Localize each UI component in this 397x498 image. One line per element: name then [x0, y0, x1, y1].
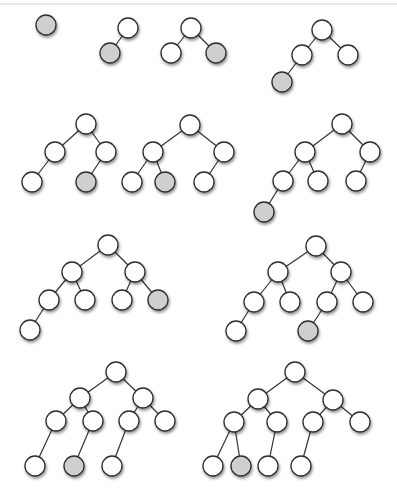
tree-node: [143, 142, 163, 162]
tree-node: [346, 171, 366, 191]
tree-8: [20, 235, 168, 340]
inserted-node: [36, 15, 56, 35]
tree-node: [308, 171, 328, 191]
inserted-node: [155, 172, 175, 192]
inserted-node: [298, 321, 318, 341]
tree-11: [203, 362, 370, 476]
tree-node: [244, 292, 264, 312]
tree-node: [125, 262, 145, 282]
tree-node: [75, 290, 95, 310]
tree-9: [226, 236, 373, 341]
inserted-node: [76, 172, 96, 192]
tree-node: [118, 18, 138, 38]
tree-node: [25, 456, 45, 476]
tree-node: [22, 172, 42, 192]
tree-7: [254, 114, 380, 222]
tree-5: [22, 114, 116, 192]
tree-node: [273, 171, 293, 191]
inserted-node: [64, 456, 84, 476]
tree-node: [306, 236, 326, 256]
tree-node: [76, 114, 96, 134]
tree-node: [285, 362, 305, 382]
tree-node: [331, 262, 351, 282]
inserted-node: [231, 456, 251, 476]
tree-node: [224, 412, 244, 432]
tree-node: [350, 412, 370, 432]
tree-node: [106, 362, 126, 382]
tree-node: [180, 115, 200, 135]
tree-node: [303, 412, 323, 432]
tree-node: [122, 172, 142, 192]
tree-node: [112, 290, 132, 310]
tree-node: [353, 292, 373, 312]
tree-node: [102, 456, 122, 476]
tree-node: [267, 412, 287, 432]
tree-node: [291, 456, 311, 476]
tree-node: [133, 388, 153, 408]
tree-node: [62, 262, 82, 282]
tree-4: [272, 20, 358, 92]
tree-node: [45, 142, 65, 162]
tree-node: [70, 388, 90, 408]
tree-node: [20, 320, 40, 340]
tree-node: [268, 262, 288, 282]
tree-node: [332, 114, 352, 134]
tree-node: [292, 45, 312, 65]
tree-node: [280, 292, 300, 312]
tree-node: [360, 142, 380, 162]
tree-node: [119, 411, 139, 431]
tree-node: [83, 411, 103, 431]
tree-2: [100, 18, 138, 63]
tree-node: [317, 292, 337, 312]
tree-node: [323, 390, 343, 410]
tree-node: [181, 18, 201, 38]
tree-node: [338, 45, 358, 65]
tree-node: [155, 411, 175, 431]
tree-6: [122, 115, 234, 192]
tree-1: [36, 15, 56, 35]
binary-tree-diagram: [0, 0, 397, 498]
tree-node: [248, 389, 268, 409]
tree-10: [25, 362, 175, 476]
tree-node: [96, 142, 116, 162]
tree-node: [194, 172, 214, 192]
tree-node: [98, 235, 118, 255]
inserted-node: [206, 43, 226, 63]
trees-layer: [20, 15, 380, 476]
tree-node: [203, 456, 223, 476]
inserted-node: [254, 202, 274, 222]
tree-node: [226, 321, 246, 341]
tree-3: [161, 18, 226, 63]
inserted-node: [272, 72, 292, 92]
tree-node: [46, 411, 66, 431]
tree-node: [39, 290, 59, 310]
inserted-node: [148, 290, 168, 310]
inserted-node: [100, 43, 120, 63]
tree-node: [312, 20, 332, 40]
tree-node: [214, 142, 234, 162]
tree-node: [161, 43, 181, 63]
tree-node: [258, 456, 278, 476]
tree-node: [295, 142, 315, 162]
